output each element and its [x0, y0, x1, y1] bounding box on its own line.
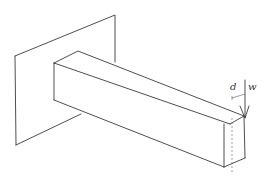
wall-plane [15, 15, 115, 145]
label-w: w [248, 81, 257, 92]
dimension-d [232, 94, 245, 100]
beam [54, 51, 245, 167]
cantilever-diagram: d w [0, 0, 270, 179]
label-d: d [230, 81, 236, 92]
